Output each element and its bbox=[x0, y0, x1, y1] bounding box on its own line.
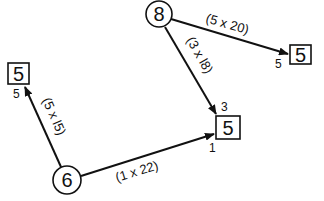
node-8-label: 8 bbox=[153, 3, 164, 25]
edge-label-1x22: (1 x 22) bbox=[113, 158, 160, 185]
right-box-label: 5 bbox=[295, 44, 306, 66]
port-label-left-box: 5 bbox=[13, 87, 20, 101]
node-left-box: 5 bbox=[8, 63, 29, 85]
center-box-label: 5 bbox=[222, 117, 233, 139]
node-8-circle: 8 bbox=[146, 1, 172, 27]
port-label-right-box: 5 bbox=[275, 57, 282, 71]
node-6-circle: 6 bbox=[53, 166, 81, 194]
node-6-label: 6 bbox=[61, 169, 72, 191]
node-right-box: 5 bbox=[290, 44, 311, 66]
edge-label-3x18: (3 x l8) bbox=[183, 34, 216, 76]
left-box-label: 5 bbox=[13, 63, 24, 85]
port-label-center-box-bottom: 1 bbox=[209, 141, 216, 155]
edge-label-5x15: (5 x l5) bbox=[39, 95, 69, 137]
port-label-center-box-top: 3 bbox=[221, 100, 228, 114]
node-center-box: 5 bbox=[216, 116, 240, 139]
edge-label-5x20: (5 x 20) bbox=[204, 10, 251, 37]
diagram-canvas: (5 x 20) (3 x l8) (5 x l5) (1 x 22) 5 3 … bbox=[0, 0, 324, 201]
